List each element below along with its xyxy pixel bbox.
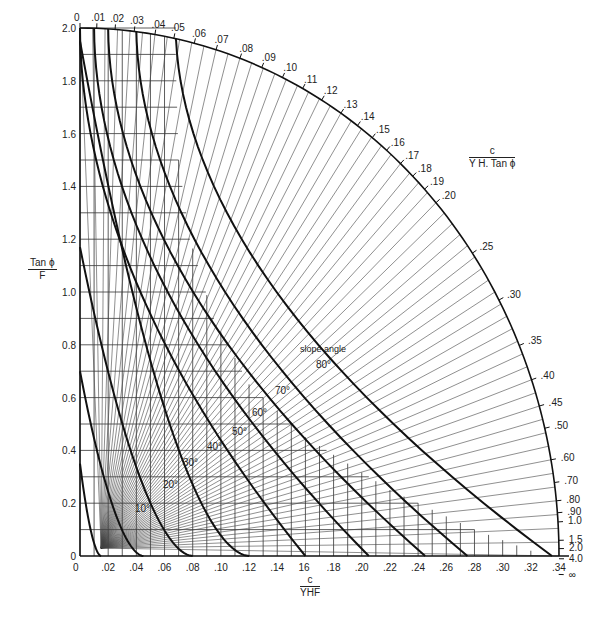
svg-text:.70: .70 bbox=[564, 475, 578, 486]
svg-text:.02: .02 bbox=[110, 13, 124, 24]
svg-text:.12: .12 bbox=[324, 85, 338, 96]
x-axis-title: c YHF bbox=[300, 574, 320, 599]
arc-scale-title: c Y H. Tan ϕ bbox=[469, 145, 515, 170]
svg-text:20°: 20° bbox=[163, 479, 178, 490]
svg-text:.01: .01 bbox=[91, 12, 105, 23]
arc-scale-denominator: Y H. Tan ϕ bbox=[469, 158, 515, 170]
svg-text:.28: .28 bbox=[467, 562, 481, 573]
y-axis-numerator: Tan ϕ bbox=[28, 257, 57, 270]
svg-text:0: 0 bbox=[74, 12, 80, 23]
svg-text:.35: .35 bbox=[528, 335, 542, 346]
svg-text:.16: .16 bbox=[391, 137, 405, 148]
svg-text:.30: .30 bbox=[496, 562, 510, 573]
svg-text:.18: .18 bbox=[327, 562, 341, 573]
svg-text:16: 16 bbox=[298, 562, 310, 573]
svg-text:1.0: 1.0 bbox=[62, 287, 76, 298]
svg-text:30°: 30° bbox=[183, 457, 198, 468]
svg-text:.10: .10 bbox=[283, 62, 297, 73]
svg-text:.45: .45 bbox=[549, 397, 563, 408]
svg-text:60°: 60° bbox=[252, 407, 267, 418]
svg-text:0.4: 0.4 bbox=[62, 445, 76, 456]
y-axis-denominator: F bbox=[28, 270, 57, 282]
svg-text:.26: .26 bbox=[439, 562, 453, 573]
svg-text:80°: 80° bbox=[316, 359, 331, 370]
svg-text:.20: .20 bbox=[442, 190, 456, 201]
svg-text:.25: .25 bbox=[479, 241, 493, 252]
svg-text:.04: .04 bbox=[129, 562, 143, 573]
stability-chart: 10°20°30°40°50°60°70°80° 0.01.02.03.04.0… bbox=[0, 0, 604, 630]
svg-text:50°: 50° bbox=[232, 426, 247, 437]
svg-text:70°: 70° bbox=[275, 385, 290, 396]
svg-text:0: 0 bbox=[73, 562, 79, 573]
slope-angle-label: slope angle bbox=[300, 343, 346, 355]
svg-text:.40: .40 bbox=[541, 370, 555, 381]
svg-text:.14: .14 bbox=[270, 562, 284, 573]
svg-text:.13: .13 bbox=[344, 99, 358, 110]
svg-text:1.2: 1.2 bbox=[62, 234, 76, 245]
arc-scale-numerator: c bbox=[469, 145, 515, 158]
svg-text:0.8: 0.8 bbox=[62, 340, 76, 351]
svg-text:.32: .32 bbox=[524, 562, 538, 573]
y-axis-title: Tan ϕ F bbox=[28, 257, 57, 282]
svg-text:.15: .15 bbox=[376, 124, 390, 135]
svg-text:.02: .02 bbox=[101, 562, 115, 573]
svg-text:.08: .08 bbox=[186, 562, 200, 573]
svg-text:.08: .08 bbox=[239, 43, 253, 54]
svg-text:.06: .06 bbox=[192, 28, 206, 39]
svg-text:2.0: 2.0 bbox=[62, 23, 76, 34]
svg-text:0.2: 0.2 bbox=[62, 498, 76, 509]
svg-text:.05: .05 bbox=[171, 22, 185, 33]
svg-text:.09: .09 bbox=[262, 52, 276, 63]
svg-text:.30: .30 bbox=[507, 289, 521, 300]
svg-text:.20: .20 bbox=[355, 562, 369, 573]
svg-text:.24: .24 bbox=[411, 562, 425, 573]
x-axis-denominator: YHF bbox=[300, 587, 320, 599]
svg-text:.34: .34 bbox=[552, 562, 566, 573]
svg-text:.06: .06 bbox=[158, 562, 172, 573]
svg-text:∞: ∞ bbox=[569, 569, 576, 580]
svg-text:.18: .18 bbox=[418, 163, 432, 174]
svg-text:.10: .10 bbox=[214, 562, 228, 573]
svg-text:0: 0 bbox=[70, 551, 76, 562]
svg-text:.22: .22 bbox=[383, 562, 397, 573]
svg-text:.19: .19 bbox=[430, 176, 444, 187]
svg-text:10°: 10° bbox=[135, 503, 150, 514]
svg-text:.80: .80 bbox=[566, 494, 580, 505]
svg-text:1.0: 1.0 bbox=[568, 515, 582, 526]
svg-text:.11: .11 bbox=[304, 74, 318, 85]
svg-text:.03: .03 bbox=[130, 15, 144, 26]
svg-text:4.0: 4.0 bbox=[569, 553, 583, 564]
svg-text:.17: .17 bbox=[405, 150, 419, 161]
svg-text:1.6: 1.6 bbox=[62, 129, 76, 140]
svg-text:.60: .60 bbox=[561, 452, 575, 463]
x-axis-numerator: c bbox=[300, 574, 320, 587]
svg-text:40°: 40° bbox=[207, 441, 222, 452]
tick-labels: 0.02.04.06.08.10.12.1416.18.20.22.24.26.… bbox=[62, 23, 566, 573]
svg-text:.50: .50 bbox=[554, 420, 568, 431]
svg-text:1.4: 1.4 bbox=[62, 181, 76, 192]
svg-text:1.8: 1.8 bbox=[62, 76, 76, 87]
svg-text:.07: .07 bbox=[215, 34, 229, 45]
svg-text:0.6: 0.6 bbox=[62, 393, 76, 404]
svg-text:.04: .04 bbox=[151, 19, 165, 30]
svg-text:.14: .14 bbox=[361, 111, 375, 122]
svg-text:.12: .12 bbox=[242, 562, 256, 573]
